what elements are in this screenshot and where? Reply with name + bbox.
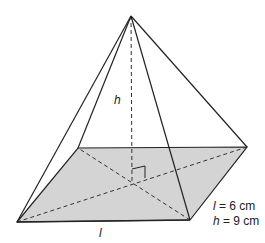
- given-height: h = 9 cm: [213, 214, 259, 228]
- edge-apex-back-right: [131, 16, 247, 147]
- pyramid-diagram: h l l = 6 cm h = 9 cm: [0, 0, 265, 243]
- given-length: l = 6 cm: [213, 199, 255, 213]
- height-label: h: [114, 93, 121, 107]
- pyramid-figure: h l l = 6 cm h = 9 cm: [0, 0, 265, 243]
- given-h-value: = 9 cm: [220, 214, 260, 228]
- edge-apex-back-left: [78, 16, 131, 148]
- given-l-value: = 6 cm: [216, 199, 256, 213]
- edge-label: l: [99, 226, 102, 240]
